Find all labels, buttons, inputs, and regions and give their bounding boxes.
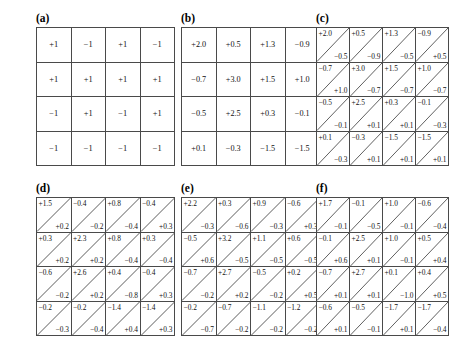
grid-cell-split: +2.7+0.2	[216, 267, 251, 302]
cell-value-lower: −0.3	[201, 222, 214, 231]
grid-cell: −1	[140, 28, 175, 63]
cell-value-lower: +0.3	[159, 325, 172, 334]
cell-value-upper: +0.4	[418, 268, 431, 277]
cell-value-lower: −0.2	[201, 291, 214, 300]
table-row: +1.7−0.1−0.1−0.5+1.0−0.1−0.6−0.4	[317, 198, 449, 233]
cell-value-lower: −0.5	[334, 52, 347, 61]
cell-value: −1.5	[286, 132, 320, 166]
cell-value-upper: −0.7	[319, 268, 332, 277]
cell-value-upper: −1.1	[253, 303, 266, 312]
cell-value-lower: −0.3	[334, 155, 347, 164]
panel-f: (f) +1.7−0.1−0.1−0.5+1.0−0.1−0.6−0.4−0.1…	[316, 182, 449, 336]
cell-value-lower: +0.3	[159, 222, 172, 231]
cell-value-upper: +1.0	[385, 199, 398, 208]
cell-value-lower: +0.2	[90, 256, 103, 265]
cell-value-upper: +3.2	[218, 234, 231, 243]
cell-value: +1	[106, 63, 140, 97]
grid-cell-split: −0.7−0.2	[216, 301, 251, 336]
grid-cell-split: −0.6−0.2	[37, 267, 72, 302]
grid-cell-split: +1.0−0.1	[383, 198, 416, 233]
table-row: +1.5+0.2−0.4−0.2+0.8−0.4−0.4+0.3	[37, 198, 175, 233]
grid-cell-split: −1.5+0.1	[383, 131, 416, 166]
cell-value-upper: −0.6	[418, 199, 431, 208]
cell-value-lower: −0.2	[235, 325, 248, 334]
grid-cell-split: −0.5+0.6	[182, 232, 217, 267]
grid-cell-split: +0.3+0.1	[383, 97, 416, 132]
cell-value: −1	[72, 132, 106, 166]
grid-cell-split: −0.2−0.3	[37, 301, 72, 336]
cell-value-upper: −0.1	[418, 98, 431, 107]
cell-value-lower: −0.3	[433, 121, 446, 130]
grid-cell: +3.0	[216, 62, 251, 97]
cell-value: +1	[72, 97, 106, 131]
cell-value-lower: −0.4	[90, 325, 103, 334]
grid-cell-split: +0.1−0.3	[317, 131, 350, 166]
grid-cell-split: −1.4+0.4	[106, 301, 141, 336]
cell-value-upper: +0.9	[253, 199, 266, 208]
grid-cell: +2.0	[182, 28, 217, 63]
cell-value-upper: −1.7	[385, 303, 398, 312]
grid-cell: −1	[37, 131, 72, 166]
grid-cell: +1.0	[285, 62, 320, 97]
table-row: +1 +1 +1 +1	[37, 62, 175, 97]
cell-value-upper: +0.8	[108, 199, 121, 208]
panel-e-label: (e)	[181, 182, 320, 195]
table-row: −0.7+0.1+2.7+0.1+0.1−1.0+0.4+0.5	[317, 267, 449, 302]
cell-value-lower: +0.2	[235, 291, 248, 300]
cell-value-lower: −0.6	[235, 222, 248, 231]
grid-cell: −1	[140, 131, 175, 166]
cell-value-upper: +2.0	[319, 29, 332, 38]
cell-value-upper: +0.1	[319, 133, 332, 142]
cell-value-lower: +0.1	[367, 256, 380, 265]
grid-cell-split: −0.2−0.7	[182, 301, 217, 336]
grid-cell-split: −0.5−0.1	[317, 97, 350, 132]
cell-value-upper: +1.5	[39, 199, 52, 208]
panel-b-label: (b)	[181, 12, 320, 25]
cell-value-lower: −0.3	[56, 325, 69, 334]
cell-value-upper: −0.4	[73, 199, 86, 208]
grid-cell: +1.3	[251, 28, 286, 63]
table-row: −0.2−0.7−0.7−0.2−1.1−0.2−1.2−0.2	[182, 301, 320, 336]
grid-cell-split: +0.2+0.5	[285, 267, 320, 302]
grid-cell: +1	[106, 62, 141, 97]
panel-c-grid: +2.0−0.5+0.5−0.9+1.3−0.5−0.9+0.5−0.7+1.0…	[316, 27, 449, 166]
cell-value-upper: +2.2	[184, 199, 197, 208]
cell-value-lower: +0.1	[367, 291, 380, 300]
cell-value-upper: +2.7	[352, 268, 365, 277]
cell-value-upper: −0.9	[418, 29, 431, 38]
cell-value-lower: +0.1	[334, 291, 347, 300]
cell-value-lower: +0.4	[433, 256, 446, 265]
cell-value-lower: −0.2	[90, 222, 103, 231]
grid-cell-split: −0.7+0.1	[317, 267, 350, 302]
cell-value-lower: −0.2	[270, 291, 283, 300]
grid-cell: −0.1	[285, 97, 320, 132]
table-row: −0.1+0.6+2.5+0.1+1.0−0.1+0.5+0.4	[317, 232, 449, 267]
cell-value-lower: +0.5	[433, 291, 446, 300]
grid-cell-split: −0.6+0.3	[285, 198, 320, 233]
cell-value: −1	[141, 28, 175, 62]
panel-d-label: (d)	[36, 182, 175, 195]
grid-cell: +1	[140, 97, 175, 132]
grid-cell: −0.9	[285, 28, 320, 63]
cell-value-upper: +1.7	[319, 199, 332, 208]
grid-cell-split: +2.5+0.1	[350, 232, 383, 267]
cell-value-upper: −0.5	[352, 303, 365, 312]
cell-value-upper: +2.7	[218, 268, 231, 277]
cell-value-upper: −0.7	[319, 64, 332, 73]
grid-cell-split: +2.5+0.1	[350, 97, 383, 132]
panel-f-grid: +1.7−0.1−0.1−0.5+1.0−0.1−0.6−0.4−0.1+0.6…	[316, 197, 449, 336]
cell-value: +1.0	[286, 63, 320, 97]
grid-cell-split: +0.6−0.5	[285, 232, 320, 267]
table-row: −0.6−0.2+2.6+0.2+0.4−0.8−0.4+0.3	[37, 267, 175, 302]
table-row: +2.0 +0.5 +1.3 −0.9	[182, 28, 320, 63]
grid-cell: −0.3	[216, 131, 251, 166]
cell-value-upper: +2.3	[73, 234, 86, 243]
table-row: −1 −1 −1 −1	[37, 131, 175, 166]
grid-cell-split: +1.0−0.7	[416, 62, 449, 97]
cell-value-lower: −0.5	[270, 256, 283, 265]
cell-value: −1	[37, 97, 71, 131]
table-row: +0.3+0.2+2.3+0.2+0.8−0.4+0.3−0.4	[37, 232, 175, 267]
cell-value-upper: +2.5	[352, 234, 365, 243]
grid-cell-split: −0.4−0.2	[71, 198, 106, 233]
cell-value-lower: +0.1	[400, 121, 413, 130]
